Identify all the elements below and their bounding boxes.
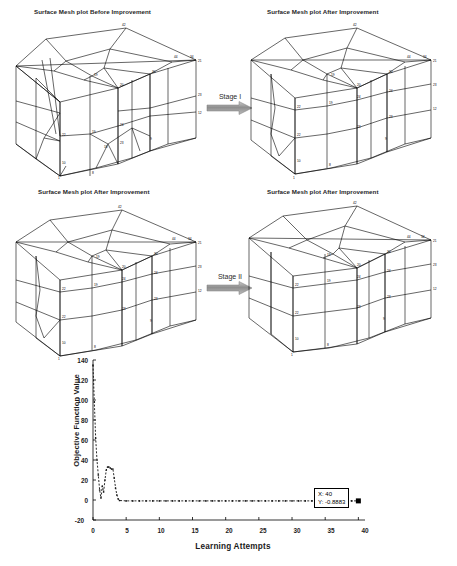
svg-text:23: 23 xyxy=(433,83,437,87)
svg-text:30: 30 xyxy=(389,70,393,74)
svg-text:22: 22 xyxy=(62,315,66,319)
svg-text:22: 22 xyxy=(62,133,66,137)
svg-text:34: 34 xyxy=(421,235,425,239)
panel-before-title: Surface Mesh plot Before Improvement xyxy=(34,8,151,15)
svg-text:10: 10 xyxy=(297,159,301,163)
svg-text:20: 20 xyxy=(357,83,361,87)
svg-text:23: 23 xyxy=(357,125,361,129)
svg-text:23: 23 xyxy=(389,115,393,119)
svg-text:30: 30 xyxy=(387,250,391,254)
svg-text:10: 10 xyxy=(62,341,66,345)
svg-text:18: 18 xyxy=(104,145,108,149)
svg-text:23: 23 xyxy=(357,305,361,309)
objective-function-chart: Objective Function Value Learning Attemp… xyxy=(58,352,398,566)
svg-text:9: 9 xyxy=(383,317,385,321)
svg-text:19: 19 xyxy=(329,101,333,105)
svg-text:34: 34 xyxy=(190,55,194,59)
svg-text:44: 44 xyxy=(172,237,176,241)
svg-text:21: 21 xyxy=(433,59,437,63)
panel-after-stage2-title: Surface Mesh plot After Improvement xyxy=(267,188,379,195)
svg-text:21: 21 xyxy=(198,241,202,245)
svg-text:22: 22 xyxy=(295,283,299,287)
svg-text:24: 24 xyxy=(389,89,393,93)
svg-text:24: 24 xyxy=(122,277,126,281)
chart-x-axis-label: Learning Attempts xyxy=(88,542,378,551)
svg-text:24: 24 xyxy=(120,123,124,127)
svg-text:20: 20 xyxy=(120,83,124,87)
data-tip-y: Y: -0.8883 xyxy=(318,498,345,506)
data-tip-x: X: 40 xyxy=(318,490,345,498)
svg-text:19: 19 xyxy=(327,279,331,283)
svg-text:10: 10 xyxy=(62,161,66,165)
mesh-after-stage2-svg: 42 44 34 21 20 30 19 19 24 24 23 12 23 2… xyxy=(245,196,457,361)
mesh-after-stage1-repeat-svg: 42 44 34 21 20 30 19 19 24 24 23 12 23 2… xyxy=(0,196,228,361)
panel-after-stage2: Surface Mesh plot After Improvement xyxy=(245,180,457,360)
svg-text:12: 12 xyxy=(198,111,202,115)
data-tip-box: X: 40 Y: -0.8883 xyxy=(314,488,349,508)
svg-text:24: 24 xyxy=(387,269,391,273)
panel-after-stage1: Surface Mesh plot After Improvement xyxy=(245,0,457,180)
svg-text:22: 22 xyxy=(297,105,301,109)
svg-text:24: 24 xyxy=(154,271,158,275)
svg-text:19: 19 xyxy=(94,283,98,287)
svg-text:22: 22 xyxy=(295,311,299,315)
svg-text:34: 34 xyxy=(188,237,192,241)
svg-text:8: 8 xyxy=(327,343,329,347)
svg-text:12: 12 xyxy=(198,289,202,293)
svg-text:22: 22 xyxy=(62,287,66,291)
svg-text:23: 23 xyxy=(433,263,437,267)
panel-after-stage1-title: Surface Mesh plot After Improvement xyxy=(267,8,379,15)
svg-text:24: 24 xyxy=(357,275,361,279)
svg-text:44: 44 xyxy=(407,55,411,59)
svg-text:19: 19 xyxy=(92,130,96,134)
svg-text:30: 30 xyxy=(152,70,156,74)
svg-text:21: 21 xyxy=(198,59,202,63)
svg-text:44: 44 xyxy=(174,55,178,59)
svg-text:20: 20 xyxy=(122,265,126,269)
svg-text:23: 23 xyxy=(198,93,202,97)
series-markers xyxy=(92,364,359,502)
svg-text:24: 24 xyxy=(357,95,361,99)
svg-text:42: 42 xyxy=(353,201,357,205)
svg-text:10: 10 xyxy=(295,337,299,341)
svg-text:23: 23 xyxy=(120,141,124,145)
svg-text:9: 9 xyxy=(150,137,152,141)
svg-text:20: 20 xyxy=(357,263,361,267)
svg-text:22: 22 xyxy=(297,133,301,137)
svg-text:23: 23 xyxy=(154,297,158,301)
svg-text:19: 19 xyxy=(96,255,100,259)
svg-text:19: 19 xyxy=(327,253,331,257)
svg-text:42: 42 xyxy=(122,23,126,27)
svg-text:9: 9 xyxy=(385,137,387,141)
mesh-before-svg: 42 44 34 21 20 30 19 19 24 23 12 23 18 2… xyxy=(0,16,228,181)
end-point-marker xyxy=(356,498,361,503)
svg-text:44: 44 xyxy=(407,235,411,239)
svg-text:23: 23 xyxy=(198,265,202,269)
svg-text:12: 12 xyxy=(433,287,437,291)
svg-text:23: 23 xyxy=(387,295,391,299)
series-line-objective xyxy=(93,365,358,501)
panel-after-stage1-repeat: Surface Mesh plot After Improvement xyxy=(0,180,228,360)
svg-text:19: 19 xyxy=(94,73,98,77)
svg-text:42: 42 xyxy=(118,205,122,209)
panel-before: Surface Mesh plot Before Improvement xyxy=(0,0,228,180)
mesh-after-stage1-svg: 42 44 34 21 20 30 19 19 24 24 23 12 23 2… xyxy=(245,16,457,181)
svg-text:8: 8 xyxy=(94,345,96,349)
svg-text:9: 9 xyxy=(150,319,152,323)
svg-text:21: 21 xyxy=(433,239,437,243)
svg-text:42: 42 xyxy=(353,23,357,27)
svg-text:8: 8 xyxy=(329,163,331,167)
svg-text:34: 34 xyxy=(423,55,427,59)
svg-text:19: 19 xyxy=(331,73,335,77)
panel-after-stage1-repeat-title: Surface Mesh plot After Improvement xyxy=(38,188,150,195)
svg-text:30: 30 xyxy=(154,252,158,256)
svg-text:12: 12 xyxy=(433,107,437,111)
svg-text:23: 23 xyxy=(122,307,126,311)
svg-text:8: 8 xyxy=(92,171,94,175)
